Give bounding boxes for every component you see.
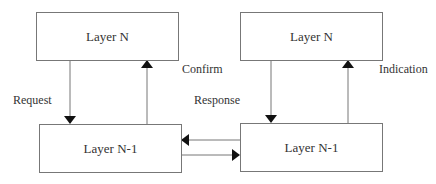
response-label: Response — [194, 93, 240, 108]
right-layer-n-1-box: Layer N-1 — [240, 123, 383, 172]
left-layer-n-1-box: Layer N-1 — [39, 124, 182, 173]
right-layer-n-1-label: Layer N-1 — [285, 140, 339, 156]
request-label: Request — [13, 93, 52, 108]
left-layer-n-label: Layer N — [86, 29, 129, 45]
right-layer-n-box: Layer N — [240, 12, 383, 61]
left-layer-n-box: Layer N — [36, 12, 179, 61]
confirm-label: Confirm — [182, 62, 223, 77]
indication-label: Indication — [379, 62, 428, 77]
left-layer-n-1-label: Layer N-1 — [84, 141, 138, 157]
right-layer-n-label: Layer N — [290, 29, 333, 45]
